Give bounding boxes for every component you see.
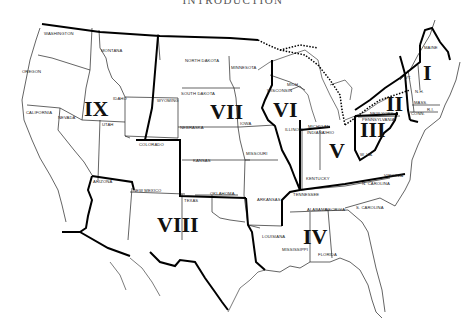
state-label: IDAHO bbox=[113, 96, 127, 101]
region-label-I: I bbox=[423, 60, 432, 85]
state-label: SOUTH DAKOTA bbox=[181, 91, 215, 96]
state-label: TEXAS bbox=[184, 198, 198, 203]
state-label: LOUISIANA bbox=[262, 234, 285, 239]
state-label: MICH. bbox=[287, 82, 299, 87]
state-label: OKLAHOMA bbox=[210, 191, 235, 196]
state-label: NORTH DAKOTA bbox=[185, 58, 219, 63]
state-label: COLORADO bbox=[139, 142, 164, 147]
state-label: S. CAROLINA bbox=[356, 205, 384, 210]
state-label: MISSOURI bbox=[246, 151, 268, 156]
state-label: GEORGIA bbox=[325, 207, 345, 212]
state-label: WISCONSIN bbox=[267, 88, 292, 93]
state-label: ARKANSAS bbox=[257, 197, 281, 202]
state-label: OHIO bbox=[323, 130, 335, 135]
state-label: CONN. bbox=[411, 111, 425, 116]
state-label: OREGON bbox=[22, 69, 41, 74]
state-label: FLORIDA bbox=[318, 252, 337, 257]
state-labels: WASHINGTON MONTANA OREGON IDAHO WYOMING … bbox=[22, 31, 438, 257]
state-label: NEBRASKA bbox=[180, 125, 204, 130]
state-label: MISSISSIPPI bbox=[282, 247, 308, 252]
state-label: R.I. bbox=[427, 107, 434, 112]
state-label: MONTANA bbox=[101, 48, 122, 53]
state-label: PENNSYLVANIA bbox=[362, 117, 395, 122]
state-label: VT. bbox=[405, 75, 411, 80]
state-label: WASHINGTON bbox=[44, 31, 74, 36]
region-label-V: V bbox=[329, 138, 345, 163]
state-label: N. CAROLINA bbox=[362, 181, 390, 186]
state-label: KANSAS bbox=[193, 158, 211, 163]
state-label: N.H. bbox=[415, 89, 424, 94]
state-label: MINNESOTA bbox=[231, 65, 257, 70]
state-label: ARIZONA bbox=[93, 179, 112, 184]
state-label: TENNESSEE bbox=[293, 192, 319, 197]
region-label-VIII: VIII bbox=[157, 212, 199, 237]
state-label: VIRGINIA bbox=[384, 173, 403, 178]
state-label: MICHIGAN bbox=[308, 124, 330, 129]
region-label-VII: VII bbox=[210, 99, 243, 124]
state-label: UTAH bbox=[102, 122, 114, 127]
state-label: ILLINOIS bbox=[285, 127, 303, 132]
state-label: CALIFORNIA bbox=[26, 110, 52, 115]
state-label: KENTUCKY bbox=[306, 176, 330, 181]
state-label: IOWA bbox=[240, 121, 252, 126]
state-label: MAINE bbox=[424, 45, 438, 50]
region-label-IX: IX bbox=[84, 96, 109, 121]
state-label: NEVADA bbox=[58, 115, 76, 120]
state-label: WYOMING bbox=[157, 98, 179, 103]
region-label-VI: VI bbox=[273, 97, 297, 122]
us-regions-map: I II III IV V VI VII VIII IX WASHINGTON … bbox=[0, 0, 466, 335]
state-label: W. VA. bbox=[360, 152, 373, 157]
state-label: NEW YORK bbox=[370, 111, 394, 116]
region-label-IV: IV bbox=[303, 224, 328, 249]
state-label: MASS. bbox=[414, 100, 428, 105]
state-label: NEW MEXICO bbox=[133, 188, 162, 193]
